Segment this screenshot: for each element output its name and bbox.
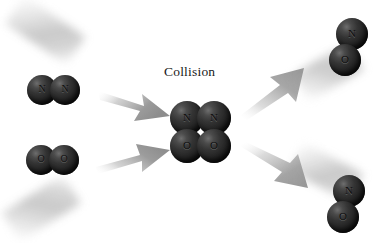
atom-oxygen: O [197, 129, 231, 163]
atom-label: N [38, 84, 45, 94]
arrow-out-bottom [240, 142, 316, 198]
atom-label: N [183, 112, 191, 123]
atom-oxygen: O [329, 44, 361, 76]
atom-label: O [60, 154, 67, 164]
arrow-in-top [98, 86, 174, 128]
molecule-n2: N N [27, 73, 93, 109]
molecule-o2: O O [26, 143, 92, 179]
reaction-diagram: N N O O [0, 0, 385, 243]
atom-label: N [348, 28, 356, 39]
motion-trail-o2 [2, 175, 81, 242]
arrow-in-bottom [96, 134, 174, 174]
molecule-no-bottom: N O [327, 175, 371, 237]
atom-oxygen: O [327, 201, 359, 233]
atom-label: O [341, 54, 349, 65]
motion-trail-n2 [5, 0, 85, 65]
atom-nitrogen: N [50, 75, 80, 105]
collision-complex: N N O O [170, 101, 242, 173]
atom-label: N [210, 112, 218, 123]
atom-label: O [210, 140, 218, 151]
atom-label: O [339, 211, 347, 222]
collision-label: Collision [164, 64, 215, 80]
atom-label: N [345, 185, 353, 196]
atom-label: N [61, 84, 68, 94]
atom-label: O [183, 140, 191, 151]
atom-oxygen: O [49, 145, 79, 175]
arrow-out-top [240, 64, 312, 120]
atom-label: O [37, 154, 44, 164]
molecule-no-top: N O [328, 18, 372, 80]
